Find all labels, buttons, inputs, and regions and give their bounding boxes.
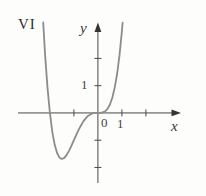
graph-panel: VI y x 0 1 1 [0, 0, 206, 196]
x-axis-label: x [171, 119, 178, 134]
origin-label: 0 [101, 116, 108, 129]
y-axis-label: y [80, 21, 87, 36]
panel-label: VI [18, 17, 36, 32]
x-tick-label-1: 1 [117, 117, 124, 130]
y-axis-arrowhead [95, 23, 102, 33]
y-tick-label-1: 1 [81, 78, 88, 91]
x-axis-arrowhead [172, 110, 182, 117]
